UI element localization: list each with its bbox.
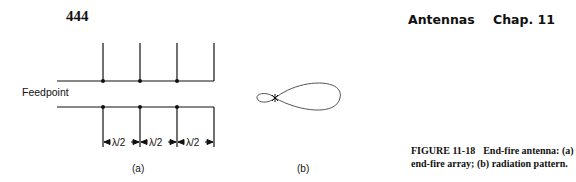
caption-line-2: end-fire array; (b) radiation pattern. xyxy=(411,158,568,169)
subfigure-b-label: (b) xyxy=(297,163,309,174)
spacing-label-1: λ/2 xyxy=(112,137,126,148)
spacing-label-3: λ/2 xyxy=(186,137,200,148)
figure-caption: FIGURE 11-18End-fire antenna: (a) end-fi… xyxy=(411,144,576,170)
radiation-pattern xyxy=(257,83,340,110)
feedpoint-label: Feedpoint xyxy=(22,86,69,98)
upper-array xyxy=(57,43,214,81)
spacing-label-2: λ/2 xyxy=(149,137,163,148)
figure-label: FIGURE 11-18 xyxy=(411,145,475,156)
antenna-origin-marker xyxy=(272,94,278,102)
caption-line-1: End-fire antenna: (a) xyxy=(483,145,573,156)
main-lobe xyxy=(275,83,340,110)
subfigure-a-label: (a) xyxy=(132,163,144,174)
